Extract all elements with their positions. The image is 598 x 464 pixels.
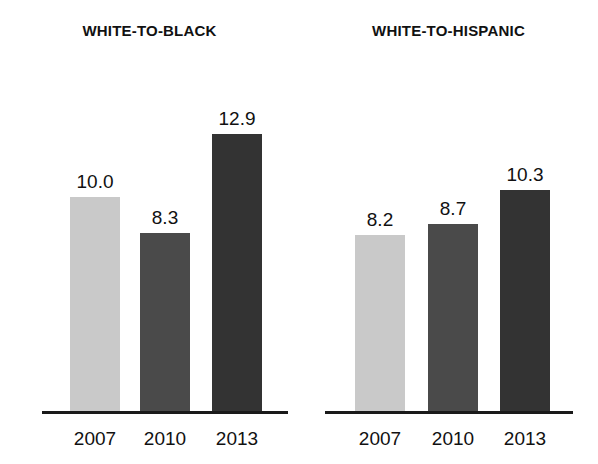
bar-2013	[212, 134, 262, 411]
bar-value-label: 8.3	[130, 207, 200, 229]
bar-value-label: 8.7	[418, 198, 488, 220]
bar-value-label: 8.2	[345, 209, 415, 231]
x-tick-label-2007: 2007	[60, 428, 130, 450]
bar-value-label: 10.0	[60, 171, 130, 193]
bar-2007	[355, 235, 405, 411]
bar-2010	[140, 233, 190, 411]
bar-chart-figure: WHITE-TO-BLACK 10.0 8.3 12.9 2007 2010 2…	[0, 0, 598, 464]
chart-panel-white-to-black: WHITE-TO-BLACK 10.0 8.3 12.9 2007 2010 2…	[0, 0, 299, 464]
x-axis-line	[42, 411, 288, 414]
x-tick-label-2010: 2010	[418, 428, 488, 450]
bar-2010	[428, 224, 478, 411]
x-tick-label-2007: 2007	[345, 428, 415, 450]
bar-2013	[500, 190, 550, 411]
plot-area-left: 10.0 8.3 12.9 2007 2010 2013	[0, 0, 299, 464]
x-tick-label-2013: 2013	[202, 428, 272, 450]
chart-panel-white-to-hispanic: WHITE-TO-HISPANIC 8.2 8.7 10.3 2007 2010…	[299, 0, 598, 464]
x-tick-label-2010: 2010	[130, 428, 200, 450]
bar-2007	[70, 197, 120, 411]
bar-value-label: 10.3	[490, 164, 560, 186]
x-tick-label-2013: 2013	[490, 428, 560, 450]
x-axis-line	[325, 411, 573, 414]
bar-value-label: 12.9	[202, 108, 272, 130]
plot-area-right: 8.2 8.7 10.3 2007 2010 2013	[299, 0, 598, 464]
